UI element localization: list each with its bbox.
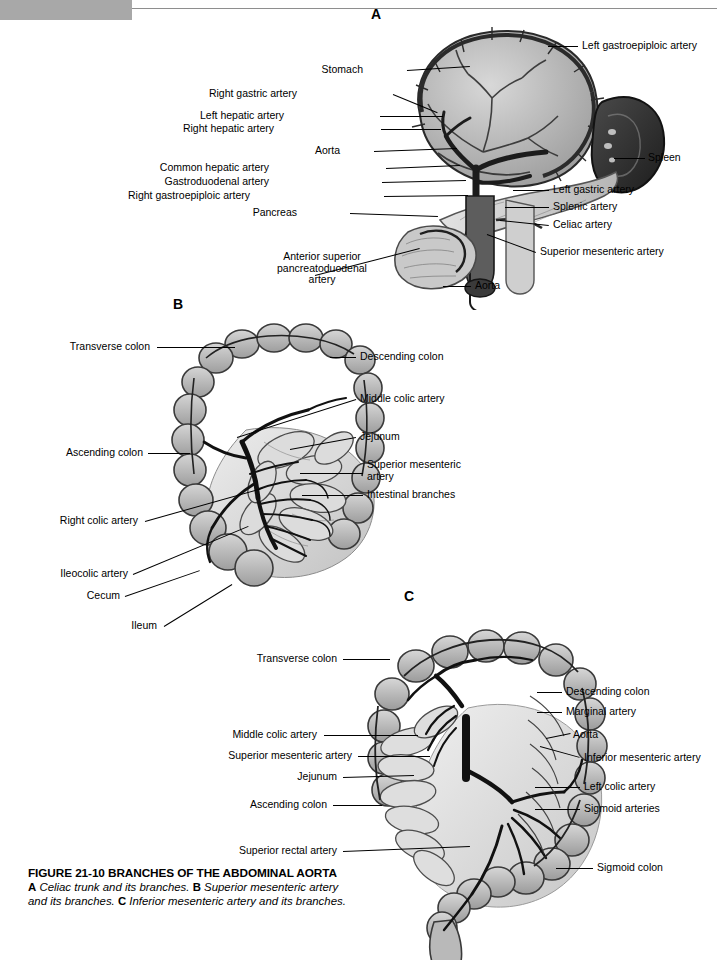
header-rule <box>132 8 717 9</box>
anatomy-label-b-9: Superior mesenteric artery <box>367 459 461 482</box>
leader-line <box>487 234 536 253</box>
leader-line <box>290 437 356 450</box>
leader-line <box>513 190 549 191</box>
anatomy-label-c-4: Ascending colon <box>0 799 327 811</box>
anatomy-label-b-5: Ileum <box>0 620 157 632</box>
anatomy-label-c-11: Sigmoid arteries <box>584 803 660 815</box>
anatomy-label-b-2: Right colic artery <box>0 515 138 527</box>
anatomy-label-b-8: Jejunum <box>360 431 400 443</box>
anatomy-label-c-1: Middle colic artery <box>0 729 317 741</box>
anatomy-label-a-12: Splenic artery <box>553 201 617 213</box>
caption-part-text-c: Inferior mesenteric artery and its branc… <box>129 895 346 907</box>
leader-line <box>145 488 262 522</box>
figure-caption: FIGURE 21-10 BRANCHES OF THE ABDOMINAL A… <box>28 866 358 908</box>
caption-part-text-a: Celiac trunk and its branches. <box>39 881 189 893</box>
leader-line <box>125 570 200 597</box>
anatomy-label-a-6: Common hepatic artery <box>0 162 269 174</box>
leader-line <box>548 46 578 47</box>
anatomy-label-b-0: Transverse colon <box>0 341 150 353</box>
leader-line <box>546 733 570 739</box>
leader-line <box>614 158 645 159</box>
leader-line <box>382 180 466 183</box>
anatomy-label-a-14: Superior mesenteric artery <box>540 246 664 258</box>
anatomy-label-a-10: Spleen <box>648 152 681 164</box>
caption-body: A Celiac trunk and its branches. B Super… <box>28 881 358 908</box>
leader-line <box>393 94 437 113</box>
leader-line <box>343 659 390 660</box>
leader-line <box>386 165 460 169</box>
leader-line <box>537 692 562 693</box>
leader-line <box>343 775 414 778</box>
leader-line <box>302 495 363 496</box>
anatomy-label-c-9: Inferior mesenteric artery <box>584 752 701 764</box>
anatomy-label-a-13: Celiac artery <box>553 219 612 231</box>
leader-line <box>133 526 248 575</box>
panel-letter-c: C <box>404 588 414 604</box>
anatomy-label-c-5: Superior rectal artery <box>0 845 337 857</box>
leader-line <box>540 746 580 758</box>
anatomy-label-a-5: Aorta <box>0 145 340 157</box>
leader-line <box>384 195 468 197</box>
leader-line <box>164 584 233 627</box>
anatomy-label-c-2: Superior mesenteric artery <box>0 750 352 762</box>
leader-line <box>300 473 363 474</box>
anatomy-label-b-3: Ileocolic artery <box>0 568 128 580</box>
anatomy-label-a-3: Left hepatic artery <box>0 110 284 122</box>
anatomy-label-b-10: Intestinal branches <box>367 489 455 501</box>
leader-line <box>350 213 438 217</box>
caption-part-letter-b: B <box>193 881 201 893</box>
leader-line <box>407 66 470 71</box>
anatomy-label-b-7: Middle colic artery <box>360 393 445 405</box>
anatomy-label-c-12: Sigmoid colon <box>597 862 663 874</box>
anatomy-label-a-0: Left gastroepiploic artery <box>582 40 697 52</box>
anatomy-label-a-15: Anterior superior pancreatoduodenal arte… <box>252 251 392 286</box>
leader-line <box>535 809 580 810</box>
page-number-block: 656 <box>0 0 132 20</box>
anatomy-label-c-7: Marginal artery <box>566 706 636 718</box>
anatomy-label-a-11: Left gastric artery <box>553 184 634 196</box>
anatomy-label-b-1: Ascending colon <box>0 447 143 459</box>
leader-line <box>505 207 549 208</box>
anatomy-label-a-4: Right hepatic artery <box>0 123 274 135</box>
leader-line <box>343 846 470 852</box>
leader-line <box>358 756 430 757</box>
leader-line <box>381 129 441 130</box>
caption-part-letter-a: A <box>28 881 36 893</box>
anatomy-label-b-6: Descending colon <box>360 351 443 363</box>
leader-line <box>374 148 457 152</box>
anatomy-label-c-10: Left colic artery <box>584 781 655 793</box>
anatomy-label-c-3: Jejunum <box>0 771 337 783</box>
panel-letter-b: B <box>173 296 183 312</box>
leader-line <box>556 868 593 869</box>
leader-line <box>324 735 418 736</box>
caption-title: FIGURE 21-10 BRANCHES OF THE ABDOMINAL A… <box>28 866 358 880</box>
leader-line <box>537 712 562 713</box>
anatomy-label-b-4: Cecum <box>0 590 120 602</box>
leader-line <box>380 116 443 117</box>
leader-line <box>535 787 580 788</box>
illustration-panel-a <box>380 20 680 310</box>
anatomy-label-a-2: Right gastric artery <box>0 88 297 100</box>
leader-line <box>333 805 382 806</box>
anatomy-label-a-1: Stomach <box>0 64 363 76</box>
caption-part-letter-c: C <box>118 895 126 907</box>
leader-line <box>443 286 471 287</box>
anatomy-label-c-6: Descending colon <box>566 686 649 698</box>
leader-line <box>148 453 190 454</box>
figure-page: 656 <box>0 0 717 963</box>
leader-line <box>237 399 356 438</box>
anatomy-label-c-8: Aorta <box>573 729 598 741</box>
anatomy-label-a-16: Aorta <box>475 280 500 292</box>
anatomy-label-a-7: Gastroduodenal artery <box>0 176 269 188</box>
anatomy-label-a-8: Right gastroepiploic artery <box>0 190 250 202</box>
leader-line <box>500 220 549 226</box>
anatomy-label-a-9: Pancreas <box>0 207 297 219</box>
panel-letter-a: A <box>371 6 381 22</box>
anatomy-label-c-0: Transverse colon <box>0 653 337 665</box>
leader-line <box>157 347 235 348</box>
leader-line <box>330 357 356 358</box>
